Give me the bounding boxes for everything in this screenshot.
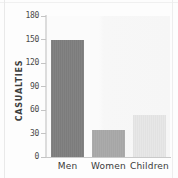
x-axis-line [45, 157, 171, 158]
y-tick-label: 60 [30, 106, 39, 114]
x-label-children: Children [123, 161, 176, 171]
y-tick-mark [41, 110, 46, 111]
casualties-bar-chart: CASUALTIES 1801501209060300 MenWomenChil… [0, 0, 178, 178]
bar-children [133, 115, 166, 157]
y-tick-label: 90 [30, 83, 39, 91]
y-tick-label: 120 [25, 59, 39, 67]
y-tick-mark [41, 16, 46, 17]
y-tick-mark [41, 157, 46, 158]
chart-page: CASUALTIES 1801501209060300 MenWomenChil… [0, 0, 178, 178]
y-tick-mark [41, 133, 46, 134]
bar-women [92, 130, 125, 157]
y-tick-label: 180 [25, 12, 39, 20]
y-axis-title: CASUALTIES [15, 41, 24, 141]
plot-area [47, 16, 170, 157]
bar-men [51, 40, 84, 158]
y-tick-label: 0 [34, 153, 39, 161]
y-tick-mark [41, 63, 46, 64]
y-tick-mark [41, 39, 46, 40]
y-tick-label: 30 [30, 130, 39, 138]
y-tick-mark [41, 86, 46, 87]
y-tick-label: 150 [25, 36, 39, 44]
